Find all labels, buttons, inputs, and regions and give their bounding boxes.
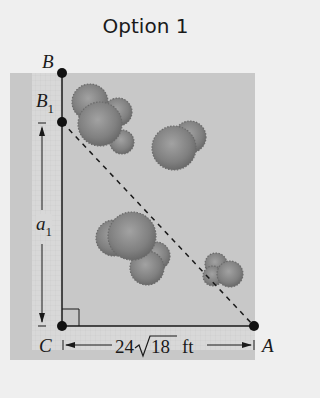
point-b1	[57, 117, 67, 127]
label-c: C	[39, 336, 52, 355]
point-a	[249, 321, 259, 331]
label-b: B	[42, 52, 54, 71]
label-b1: B1	[36, 91, 54, 110]
point-b	[57, 68, 67, 78]
point-c	[57, 321, 67, 331]
dimension-ca-unit: ft	[182, 337, 194, 356]
label-a1: a1	[36, 214, 52, 233]
dimension-ca-coefficient: 24	[115, 337, 134, 356]
dimension-ca-radicand: 18	[151, 337, 170, 356]
label-a: A	[262, 336, 274, 355]
